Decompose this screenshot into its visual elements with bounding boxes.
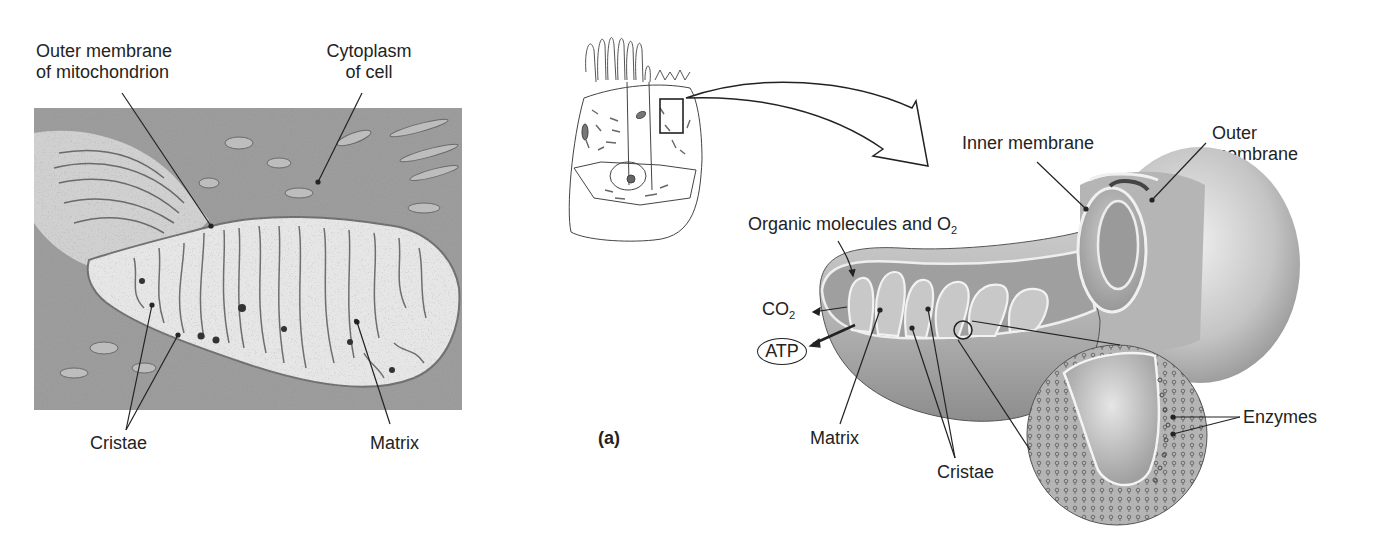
label-outer-membrane: Outer membrane xyxy=(1212,123,1298,165)
selection-box xyxy=(660,99,683,133)
electron-micrograph xyxy=(34,108,462,410)
label-co2: CO2 xyxy=(762,299,795,326)
enzyme-magnification xyxy=(1027,345,1207,525)
micrograph-image xyxy=(34,108,462,410)
label-matrix-micrograph: Matrix xyxy=(370,433,419,454)
cutaway-leader-lines xyxy=(810,143,1240,458)
label-outer-membrane-micrograph: Outer membrane of mitochondrion xyxy=(36,41,172,83)
label-cristae-cutaway: Cristae xyxy=(937,462,994,483)
cell-sketch xyxy=(569,38,702,242)
label-cytoplasm: Cytoplasm of cell xyxy=(314,41,424,83)
label-cristae-micrograph: Cristae xyxy=(90,433,147,454)
panel-label: (a) xyxy=(598,428,620,449)
zoom-arrow xyxy=(686,82,928,166)
label-matrix-cutaway: Matrix xyxy=(810,428,859,449)
mitochondrion-cutaway xyxy=(820,147,1300,421)
label-inner-membrane: Inner membrane xyxy=(962,133,1094,154)
label-organic-molecules: Organic molecules and O2 xyxy=(748,214,957,241)
label-atp: ATP xyxy=(757,338,807,365)
label-enzymes: Enzymes xyxy=(1243,407,1317,428)
